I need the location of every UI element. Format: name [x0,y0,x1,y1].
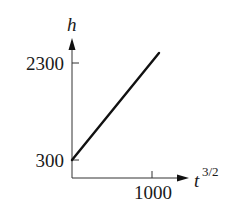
x-axis-label: t [194,170,200,191]
line-chart: h 2300 300 1000 t 3/2 [0,0,230,216]
y-axis-label: h [67,14,77,35]
y-axis-arrow-icon [69,38,76,50]
x-tick-label-1000: 1000 [134,182,172,203]
y-tick-label-2300: 2300 [26,53,64,74]
x-axis-label-exponent: 3/2 [202,164,219,179]
x-axis-arrow-icon [177,175,189,182]
data-line [72,53,159,160]
y-tick-label-300: 300 [36,150,65,171]
